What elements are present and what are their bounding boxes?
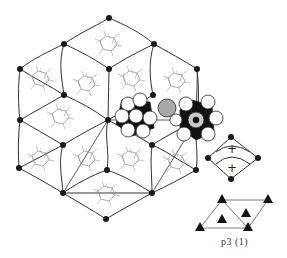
plus-sign-bottom: +	[227, 162, 237, 174]
symmetry-caption: p3 (1)	[221, 236, 248, 247]
plus-sign-top: +	[227, 143, 237, 155]
space-filling-molecule-right	[170, 95, 223, 141]
p3-symmetry-diagram	[195, 194, 273, 231]
space-filling-molecule-left	[115, 93, 176, 138]
crystal-packing-diagram	[0, 0, 287, 258]
